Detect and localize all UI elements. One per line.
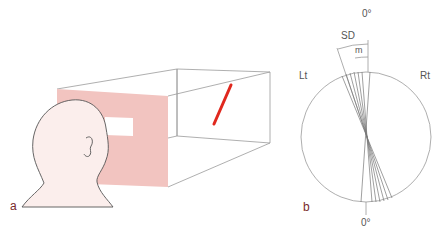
right-label: Rt	[420, 71, 430, 81]
box-back-frame	[177, 69, 270, 143]
orientation-lines	[342, 72, 392, 202]
left-label: Lt	[299, 71, 307, 81]
head-silhouette	[22, 100, 113, 207]
sd-label: SD	[341, 31, 355, 41]
top-zero-label: 0°	[362, 9, 372, 19]
m-label: m	[355, 46, 363, 55]
panel-b-label: b	[303, 201, 310, 213]
bottom-zero-label: 0°	[361, 218, 371, 228]
panel-a-label: a	[10, 200, 17, 212]
figure-canvas	[0, 0, 440, 233]
red-bar	[214, 85, 231, 124]
